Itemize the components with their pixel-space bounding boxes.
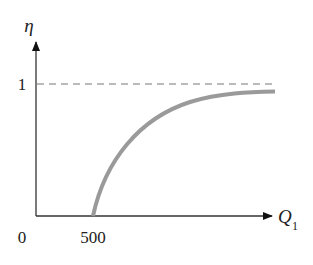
- x-axis-label: Q: [278, 206, 292, 227]
- y-tick-1: 1: [18, 75, 27, 94]
- y-axis-label: η: [24, 15, 33, 36]
- chart-svg: η 1 0 500 Q 1: [0, 0, 313, 265]
- origin-label: 0: [18, 228, 27, 247]
- efficiency-curve: [93, 92, 275, 217]
- x-axis-label-subscript: 1: [292, 219, 298, 233]
- x-tick-500: 500: [80, 228, 106, 247]
- chart: η 1 0 500 Q 1: [0, 0, 313, 265]
